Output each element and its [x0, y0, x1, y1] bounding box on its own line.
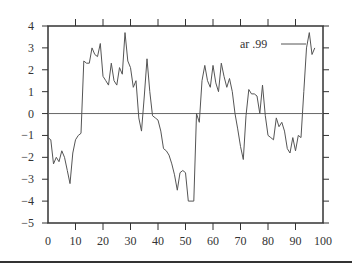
- x-tick-label: 60: [207, 234, 219, 248]
- bottom-separator: [0, 261, 352, 263]
- y-tick-label: 1: [28, 85, 34, 99]
- x-tick-label: 30: [125, 234, 137, 248]
- legend: ar .99: [240, 37, 306, 51]
- y-tick-label: 4: [28, 19, 34, 33]
- x-tick-label: 20: [97, 234, 109, 248]
- x-tick-label: 50: [180, 234, 192, 248]
- x-tick-label: 10: [70, 234, 82, 248]
- plot-frame: [48, 26, 323, 223]
- y-tick-label: 0: [28, 107, 34, 121]
- x-tick-label: 0: [45, 234, 51, 248]
- y-tick-label: −4: [21, 194, 34, 208]
- x-tick-label: 80: [262, 234, 274, 248]
- legend-label: ar .99: [240, 37, 267, 51]
- x-tick-label: 70: [235, 234, 247, 248]
- y-tick-label: 2: [28, 63, 34, 77]
- x-tick-label: 40: [152, 234, 164, 248]
- x-tick-label: 100: [314, 234, 332, 248]
- x-tick-label: 90: [290, 234, 302, 248]
- y-tick-label: −1: [21, 128, 34, 142]
- y-tick-label: −2: [21, 150, 34, 164]
- y-tick-label: −5: [21, 216, 34, 230]
- y-tick-label: −3: [21, 172, 34, 186]
- x-axis: 0102030405060708090100: [45, 19, 332, 248]
- line-chart: 43210−1−2−3−4−5 0102030405060708090100 a…: [0, 0, 352, 269]
- y-tick-label: 3: [28, 41, 34, 55]
- series-line-ar99: [48, 33, 315, 202]
